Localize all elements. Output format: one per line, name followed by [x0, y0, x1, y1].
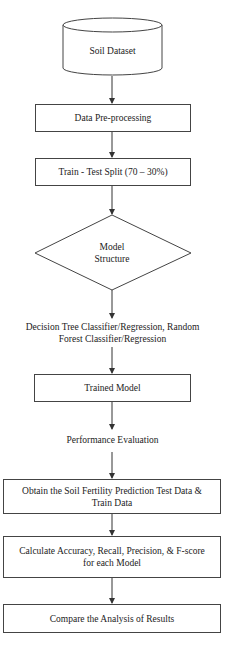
node-train-test-split: Train - Test Split (70 – 30%): [35, 158, 191, 186]
node-label-line2: Structure: [95, 253, 130, 265]
node-label: Train - Test Split (70 – 30%): [58, 166, 167, 178]
node-label-line1: Calculate Accuracy, Recall, Precision, &…: [19, 545, 205, 557]
node-label-line2: Train Data: [92, 497, 133, 509]
node-trained-model: Trained Model: [34, 374, 191, 402]
node-compare-results: Compare the Analysis of Results: [3, 604, 221, 633]
node-performance-evaluation: Performance Evaluation: [20, 432, 205, 448]
node-soil-dataset: Soil Dataset: [63, 38, 162, 64]
node-label: Trained Model: [84, 382, 140, 394]
node-label-line1: Obtain the Soil Fertility Prediction Tes…: [22, 485, 202, 497]
node-model-structure: Model Structure: [60, 238, 164, 268]
node-data-preprocessing: Data Pre-processing: [35, 104, 191, 132]
node-calculate-metrics: Calculate Accuracy, Recall, Precision, &…: [3, 536, 221, 578]
node-label: Soil Dataset: [89, 45, 135, 57]
node-label-line2: Forest Classifier/Regression: [59, 333, 166, 345]
node-label-line2: for each Model: [83, 557, 141, 569]
node-label: Compare the Analysis of Results: [50, 613, 175, 625]
node-label: Data Pre-processing: [75, 112, 152, 124]
node-label-line1: Decision Tree Classifier/Regression, Ran…: [26, 321, 200, 333]
node-algorithms: Decision Tree Classifier/Regression, Ran…: [0, 320, 225, 346]
node-label-line1: Model: [100, 241, 125, 253]
node-label: Performance Evaluation: [66, 434, 158, 446]
node-obtain-prediction: Obtain the Soil Fertility Prediction Tes…: [3, 479, 221, 514]
